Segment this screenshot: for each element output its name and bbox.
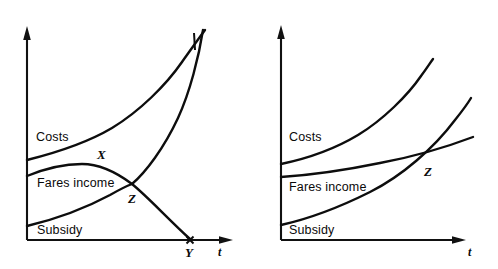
left-y-axis-arrowhead (23, 26, 31, 40)
right-subsidy-label: Subsidy (289, 224, 335, 237)
left-y-point-label: Y (185, 246, 193, 259)
left-fares-income-label: Fares income (37, 177, 115, 190)
left-subsidy-label: Subsidy (37, 224, 83, 237)
left-x-axis-label: t (218, 246, 221, 258)
left-top-crossing-tick (194, 33, 195, 50)
left-x-axis-arrowhead (219, 236, 233, 244)
left-costs-label: Costs (36, 131, 69, 144)
left-z-point-label: Z (128, 192, 136, 205)
right-z-point-label: Z (424, 165, 432, 178)
left-subsidy-curve (27, 30, 203, 226)
right-fares-income-label: Fares income (289, 181, 367, 194)
right-x-axis-arrowhead (452, 236, 466, 244)
right-costs-curve (281, 59, 433, 164)
left-x-point-label: X (97, 148, 106, 161)
right-costs-label: Costs (289, 131, 322, 144)
right-y-axis-arrowhead (277, 25, 285, 39)
right-x-axis-label: t (468, 246, 471, 258)
figure-root: Costs Fares income Subsidy X Z Y t Costs… (0, 0, 498, 269)
right-subsidy-curve (281, 98, 471, 225)
